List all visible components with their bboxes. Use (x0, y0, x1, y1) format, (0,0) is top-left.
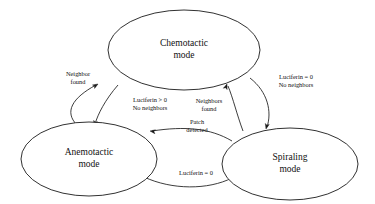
arrowhead-icon (264, 123, 269, 129)
edge-label-line2: detected (186, 127, 208, 134)
node-label-line2: mode (173, 50, 194, 60)
edge-label-spiraling-to-chemotactic: Neighborsfound (196, 98, 223, 113)
edge-chemotactic-to-spiraling (250, 78, 269, 129)
edge-line (228, 86, 243, 131)
edge-chemotactic-to-anemotactic (92, 85, 118, 127)
edge-label-line1: Patch (190, 119, 205, 126)
edge-label-line2: found (202, 106, 218, 113)
edge-label-anemotactic-to-chemotactic: Neighborfound (66, 71, 91, 86)
edge-label-anemotactic-to-spiraling: Luciferin = 0 (179, 169, 213, 176)
edge-line (250, 78, 269, 127)
edge-label-line2: found (71, 79, 87, 86)
edge-spiraling-to-chemotactic (223, 83, 243, 131)
edge-label-line1: Luciferin = 0 (179, 169, 213, 176)
edge-anemotactic-to-chemotactic (71, 82, 99, 125)
arrowhead-icon (150, 129, 156, 134)
edge-line (71, 85, 96, 125)
state-diagram: ChemotacticmodeAnemotacticmodeSpiralingm… (0, 0, 375, 204)
node-label-line1: Anemotactic (65, 148, 114, 158)
diagram-canvas: ChemotacticmodeAnemotacticmodeSpiralingm… (0, 0, 375, 204)
edge-label-chemotactic-to-anemotactic: Luciferin > 0No neighbors (133, 97, 168, 112)
edge-label-line2: No neighbors (133, 105, 168, 112)
edge-label-line1: Neighbors (196, 98, 223, 105)
node-label-line2: mode (279, 164, 300, 174)
arrowhead-icon (93, 82, 100, 88)
edge-label-line1: Luciferin > 0 (133, 97, 167, 104)
edge-label-line1: Neighbor (66, 71, 91, 78)
edge-label-line2: No neighbors (279, 82, 314, 89)
node-label-line2: mode (78, 159, 99, 169)
node-chemotactic[interactable]: Chemotacticmode (108, 10, 260, 90)
edge-anemotactic-to-spiraling (144, 175, 235, 187)
node-anemotactic[interactable]: Anemotacticmode (21, 122, 157, 196)
edge-label-line1: Luciferin = 0 (279, 74, 313, 81)
edge-line (144, 177, 232, 187)
node-label-line1: Spiraling (273, 153, 308, 163)
node-spiraling[interactable]: Spiralingmode (222, 128, 358, 200)
edge-label-spiraling-to-anemotactic: Patchdetected (186, 119, 208, 134)
node-label-line1: Chemotactic (160, 39, 208, 49)
edge-label-chemotactic-to-spiraling: Luciferin = 0No neighbors (279, 74, 314, 89)
edge-line (95, 85, 118, 124)
